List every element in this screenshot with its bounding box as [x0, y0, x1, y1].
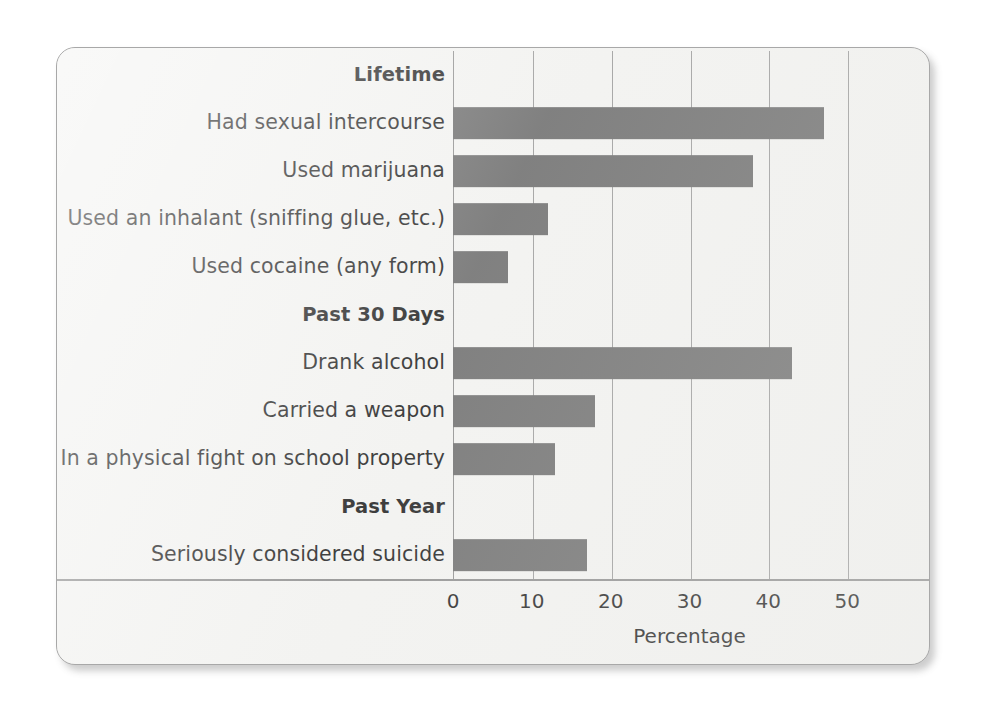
bar-cell — [449, 483, 926, 531]
bar-cell — [449, 51, 926, 99]
x-tick-label-50: 50 — [834, 589, 859, 613]
chart-panel: LifetimeHad sexual intercourseUsed marij… — [56, 47, 930, 665]
bar-row: Carried a weapon — [57, 387, 926, 435]
group-header-label: Past 30 Days — [57, 305, 449, 325]
bar — [453, 347, 792, 379]
bar-row: Had sexual intercourse — [57, 99, 926, 147]
bar-row-label: Used an inhalant (sniffing glue, etc.) — [57, 208, 449, 230]
bar — [453, 251, 508, 283]
x-axis-title: Percentage — [453, 624, 926, 648]
x-tick-label-30: 30 — [677, 589, 702, 613]
bar — [453, 203, 548, 235]
group-header-row: Lifetime — [57, 51, 926, 99]
x-tick-label-40: 40 — [756, 589, 781, 613]
x-axis-line — [57, 579, 929, 581]
bar-row: In a physical fight on school property — [57, 435, 926, 483]
x-tick-label-20: 20 — [598, 589, 623, 613]
bar-row-label: Used marijuana — [57, 160, 449, 182]
chart-rows: LifetimeHad sexual intercourseUsed marij… — [57, 51, 926, 579]
bar — [453, 107, 824, 139]
bar-cell — [449, 387, 926, 435]
bar-cell — [449, 147, 926, 195]
x-tick-label-0: 0 — [447, 589, 460, 613]
bar-row-label: Used cocaine (any form) — [57, 256, 449, 278]
x-tick-label-10: 10 — [519, 589, 544, 613]
bar — [453, 539, 587, 571]
group-header-label: Lifetime — [57, 65, 449, 85]
bar-cell — [449, 195, 926, 243]
bar-chart: LifetimeHad sexual intercourseUsed marij… — [57, 48, 929, 664]
bar-row: Seriously considered suicide — [57, 531, 926, 579]
bar-row: Used an inhalant (sniffing glue, etc.) — [57, 195, 926, 243]
bar-row: Used cocaine (any form) — [57, 243, 926, 291]
bar-row-label: Had sexual intercourse — [57, 112, 449, 134]
bar-row-label: Carried a weapon — [57, 400, 449, 422]
group-header-row: Past Year — [57, 483, 926, 531]
bar-row-label: Drank alcohol — [57, 352, 449, 374]
bar-cell — [449, 291, 926, 339]
bar-row-label: In a physical fight on school property — [57, 448, 449, 470]
group-header-row: Past 30 Days — [57, 291, 926, 339]
bar-row: Used marijuana — [57, 147, 926, 195]
bar — [453, 395, 595, 427]
bar-row-label: Seriously considered suicide — [57, 544, 449, 566]
bar — [453, 155, 753, 187]
bar-cell — [449, 99, 926, 147]
bar-cell — [449, 243, 926, 291]
bar — [453, 443, 555, 475]
bar-cell — [449, 435, 926, 483]
group-header-label: Past Year — [57, 497, 449, 517]
bar-cell — [449, 531, 926, 579]
bar-cell — [449, 339, 926, 387]
bar-row: Drank alcohol — [57, 339, 926, 387]
